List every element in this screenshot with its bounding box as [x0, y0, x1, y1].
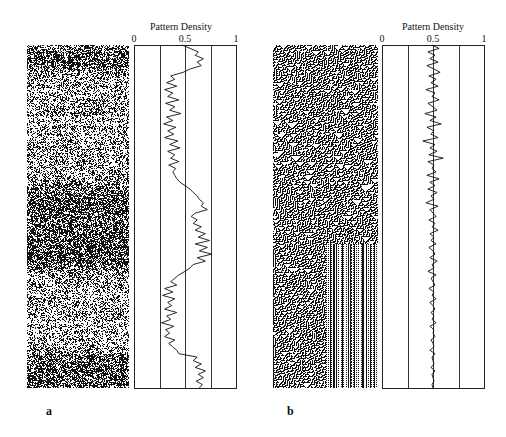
figure: Pattern Density 0 0.5 1 a Pattern Densit… — [0, 0, 506, 437]
density-line-a — [162, 45, 212, 388]
plot-a — [135, 45, 237, 389]
density-plots — [0, 0, 506, 437]
plot-b — [383, 45, 485, 389]
